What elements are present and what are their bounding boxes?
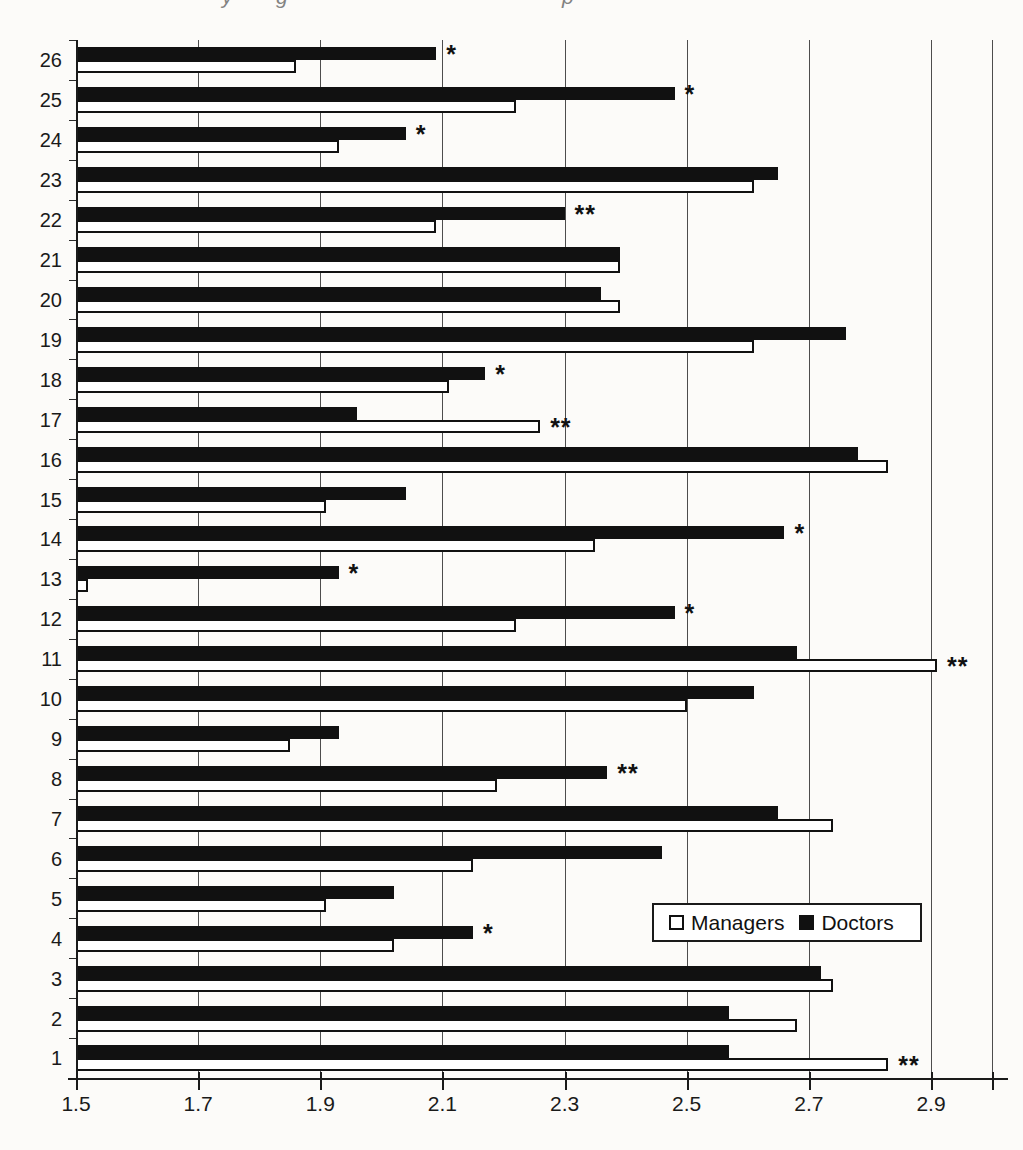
bar-managers-25	[76, 100, 516, 113]
scanned-document-page: ygp 262524232221201918171615141312111098…	[0, 0, 1023, 1150]
x-tick-label-2.5: 2.5	[657, 1092, 717, 1116]
bar-doctors-19	[76, 327, 846, 340]
category-label-20: 20	[10, 289, 62, 311]
y-axis-tick	[69, 799, 76, 800]
category-label-2: 2	[10, 1008, 62, 1030]
y-axis-tick	[69, 759, 76, 760]
significance-marker-13: *	[349, 563, 360, 583]
significance-marker-22: **	[575, 204, 596, 224]
x-axis-tick-1.7	[198, 1072, 200, 1090]
bar-doctors-10	[76, 686, 754, 699]
y-axis-tick	[69, 439, 76, 440]
bar-managers-6	[76, 859, 473, 872]
bar-doctors-5	[76, 886, 394, 899]
x-axis-tick-1.5	[76, 1072, 78, 1090]
y-axis-line	[76, 40, 78, 1078]
category-label-14: 14	[10, 528, 62, 550]
bar-managers-1	[76, 1058, 888, 1071]
significance-marker-4: *	[483, 923, 494, 943]
x-tick-label-2.9: 2.9	[901, 1092, 961, 1116]
gridline-1.7	[198, 40, 199, 1078]
y-axis-tick	[69, 160, 76, 161]
bar-managers-16	[76, 460, 888, 473]
bar-doctors-1	[76, 1045, 729, 1058]
legend-item-managers: Managers	[669, 911, 784, 935]
legend-item-doctors: Doctors	[799, 911, 893, 935]
category-label-11: 11	[10, 648, 62, 670]
bar-managers-24	[76, 140, 339, 153]
y-axis-tick	[69, 479, 76, 480]
grouped-bar-chart: 2625242322212019181716151413121110987654…	[0, 0, 1023, 1150]
bar-managers-19	[76, 340, 754, 353]
bar-doctors-20	[76, 287, 601, 300]
significance-marker-1: **	[898, 1055, 919, 1075]
y-axis-tick	[69, 399, 76, 400]
bar-doctors-25	[76, 87, 675, 100]
category-label-12: 12	[10, 608, 62, 630]
x-axis-tick-2.9	[931, 1072, 933, 1090]
bar-doctors-12	[76, 606, 675, 619]
category-label-17: 17	[10, 409, 62, 431]
bar-managers-18	[76, 380, 449, 393]
category-label-26: 26	[10, 49, 62, 71]
bar-doctors-24	[76, 127, 406, 140]
bar-managers-23	[76, 180, 754, 193]
y-axis-tick	[69, 679, 76, 680]
gridline-2.9	[931, 40, 932, 1078]
bar-doctors-14	[76, 526, 784, 539]
y-axis-tick	[69, 599, 76, 600]
y-axis-tick	[69, 200, 76, 201]
x-tick-label-1.7: 1.7	[168, 1092, 228, 1116]
gridline-3	[992, 40, 993, 1078]
bar-managers-8	[76, 779, 497, 792]
bar-doctors-4	[76, 926, 473, 939]
legend-label-doctors: Doctors	[821, 911, 893, 935]
x-tick-label-2.3: 2.3	[535, 1092, 595, 1116]
x-axis-tick-3	[992, 1072, 994, 1090]
gridline-2.3	[565, 40, 566, 1078]
x-axis-tick-2.3	[565, 1072, 567, 1090]
x-axis-tick-1.9	[320, 1072, 322, 1090]
category-label-7: 7	[10, 808, 62, 830]
category-label-18: 18	[10, 369, 62, 391]
x-tick-label-1.9: 1.9	[290, 1092, 350, 1116]
category-label-6: 6	[10, 848, 62, 870]
bar-doctors-16	[76, 447, 858, 460]
category-label-25: 25	[10, 89, 62, 111]
bar-doctors-21	[76, 247, 620, 260]
bar-managers-10	[76, 699, 687, 712]
y-axis-tick	[69, 639, 76, 640]
significance-marker-12: *	[685, 603, 696, 623]
bar-doctors-3	[76, 966, 821, 979]
category-label-8: 8	[10, 768, 62, 790]
y-axis-tick	[69, 319, 76, 320]
category-label-13: 13	[10, 568, 62, 590]
category-label-9: 9	[10, 728, 62, 750]
bar-managers-17	[76, 420, 540, 433]
y-axis-tick	[69, 80, 76, 81]
category-label-4: 4	[10, 928, 62, 950]
y-axis-tick	[69, 559, 76, 560]
y-axis-tick	[69, 918, 76, 919]
bar-doctors-23	[76, 167, 778, 180]
bar-managers-2	[76, 1019, 797, 1032]
bar-managers-12	[76, 619, 516, 632]
bar-managers-7	[76, 819, 833, 832]
significance-marker-17: **	[550, 417, 571, 437]
y-axis-tick	[69, 40, 76, 41]
bar-managers-5	[76, 899, 326, 912]
legend-label-managers: Managers	[691, 911, 784, 935]
y-axis-tick	[69, 998, 76, 999]
legend: ManagersDoctors	[652, 903, 922, 942]
significance-marker-14: *	[794, 523, 805, 543]
bar-doctors-15	[76, 487, 406, 500]
category-label-19: 19	[10, 329, 62, 351]
significance-marker-18: *	[495, 364, 506, 384]
bar-managers-21	[76, 260, 620, 273]
bar-doctors-11	[76, 646, 797, 659]
bar-managers-26	[76, 60, 296, 73]
bar-doctors-6	[76, 846, 662, 859]
x-axis-tick-2.5	[687, 1072, 689, 1090]
legend-swatch-doctors	[799, 915, 814, 930]
significance-marker-8: **	[617, 763, 638, 783]
